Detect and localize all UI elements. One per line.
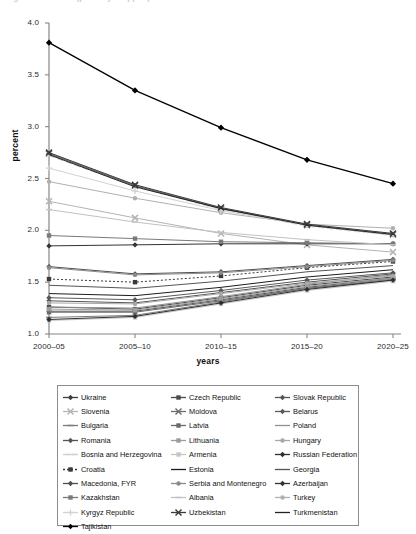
legend-item-turkmenistan[interactable]: Turkmenistan — [274, 505, 362, 519]
legend-item-estonia[interactable]: Estonia — [170, 462, 274, 476]
legend-swatch-icon — [62, 464, 79, 475]
legend-swatch-icon — [274, 492, 291, 503]
legend-item-serbia-and-montenegro[interactable]: Serbia and Montenegro — [170, 476, 274, 490]
legend-label: Hungary — [293, 436, 321, 445]
legend-label: Turkmenistan — [293, 508, 338, 517]
legend-label: Macedonia, FYR — [81, 479, 136, 488]
figure-line-chart: Figure continued (partially cropped) per… — [0, 0, 416, 534]
legend-item-uzbekistan[interactable]: Uzbekistan — [170, 505, 274, 519]
x-tick-label: 2010–15 — [191, 342, 251, 351]
series-moldova — [46, 151, 396, 238]
x-axis-label: years — [0, 356, 416, 366]
legend-swatch-icon — [170, 392, 187, 403]
legend-item-azerbaijan[interactable]: Azerbaijan — [274, 476, 362, 490]
legend-label: Armenia — [189, 450, 217, 459]
legend-label: Albania — [189, 493, 214, 502]
legend-item-russian-federation[interactable]: Russian Federation — [274, 448, 362, 462]
x-tick-label: 2005–10 — [105, 342, 165, 351]
legend-grid: UkraineCzech RepublicSlovak RepublicSlov… — [62, 390, 356, 534]
legend-item-bulgaria[interactable]: Bulgaria — [62, 419, 170, 433]
legend-swatch-icon — [62, 478, 79, 489]
legend-label: Belarus — [293, 407, 318, 416]
legend-label: Moldova — [189, 407, 217, 416]
legend-label: Czech Republic — [189, 393, 241, 402]
y-tick-label: 1.5 — [13, 277, 39, 286]
legend-swatch-icon — [274, 420, 291, 431]
legend-label: Bosnia and Herzegovina — [81, 450, 162, 459]
legend-item-macedonia-fyr[interactable]: Macedonia, FYR — [62, 476, 170, 490]
legend-item-czech-republic[interactable]: Czech Republic — [170, 390, 274, 404]
legend-swatch-icon — [274, 464, 291, 475]
legend-item-poland[interactable]: Poland — [274, 419, 362, 433]
y-tick-label: 1.0 — [13, 329, 39, 338]
legend-item-latvia[interactable]: Latvia — [170, 419, 274, 433]
chart-canvas — [0, 0, 416, 372]
series-tajikistan — [46, 40, 396, 187]
legend-swatch-icon — [274, 392, 291, 403]
legend-item-slovak-republic[interactable]: Slovak Republic — [274, 390, 362, 404]
legend-item-bosnia-and-herzegovina[interactable]: Bosnia and Herzegovina — [62, 448, 170, 462]
series-kyrgyz-republic — [46, 165, 396, 237]
y-tick-label: 2.0 — [13, 225, 39, 234]
legend-swatch-icon — [62, 449, 79, 460]
legend-swatch-icon — [62, 392, 79, 403]
y-axis-label: percent — [10, 149, 20, 162]
plot-area: percent years 4.03.53.02.52.01.51.0 2000… — [0, 0, 416, 372]
legend-label: Azerbaijan — [293, 479, 328, 488]
legend-swatch-icon — [62, 420, 79, 431]
legend-label: Serbia and Montenegro — [189, 479, 266, 488]
legend-swatch-icon — [170, 492, 187, 503]
legend-label: Romania — [81, 436, 111, 445]
legend-item-kyrgyz-republic[interactable]: Kyrgyz Republic — [62, 505, 170, 519]
legend-item-moldova[interactable]: Moldova — [170, 404, 274, 418]
legend-swatch-icon — [170, 420, 187, 431]
legend-label: Russian Federation — [293, 450, 357, 459]
legend-label: Croatia — [81, 465, 105, 474]
series-ukraine — [46, 151, 395, 237]
y-tick-label: 3.5 — [13, 70, 39, 79]
legend-swatch-icon — [274, 507, 291, 518]
legend-item-belarus[interactable]: Belarus — [274, 404, 362, 418]
legend-item-kazakhstan[interactable]: Kazakhstan — [62, 491, 170, 505]
legend-label: Latvia — [189, 421, 209, 430]
legend-label: Kyrgyz Republic — [81, 508, 134, 517]
series-layer — [46, 40, 396, 323]
legend-swatch-icon — [170, 435, 187, 446]
legend-label: Kazakhstan — [81, 493, 120, 502]
legend-label: Estonia — [189, 465, 214, 474]
legend-swatch-icon — [170, 507, 187, 518]
legend-item-ukraine[interactable]: Ukraine — [62, 390, 170, 404]
legend-swatch-icon — [62, 492, 79, 503]
legend-item-hungary[interactable]: Hungary — [274, 433, 362, 447]
legend-item-croatia[interactable]: Croatia — [62, 462, 170, 476]
legend-swatch-icon — [62, 435, 79, 446]
legend-item-georgia[interactable]: Georgia — [274, 462, 362, 476]
legend-item-slovenia[interactable]: Slovenia — [62, 404, 170, 418]
y-tick-label: 3.0 — [13, 122, 39, 131]
legend-label: Slovak Republic — [293, 393, 346, 402]
legend-label: Georgia — [293, 465, 319, 474]
series-turkmenistan — [49, 155, 393, 235]
legend-item-lithuania[interactable]: Lithuania — [170, 433, 274, 447]
y-tick-label: 2.5 — [13, 174, 39, 183]
x-tick-label: 2015–20 — [277, 342, 337, 351]
legend-swatch-icon — [274, 406, 291, 417]
legend-label: Slovenia — [81, 407, 109, 416]
legend-item-romania[interactable]: Romania — [62, 433, 170, 447]
legend-item-turkey[interactable]: Turkey — [274, 491, 362, 505]
legend-label: Turkey — [293, 493, 315, 502]
legend-label: Uzbekistan — [189, 508, 226, 517]
chart-legend: UkraineCzech RepublicSlovak RepublicSlov… — [57, 385, 359, 526]
legend-item-armenia[interactable]: Armenia — [170, 448, 274, 462]
legend-label: Poland — [293, 421, 316, 430]
legend-label: Bulgaria — [81, 421, 108, 430]
x-tick-label: 2000–05 — [19, 342, 79, 351]
legend-item-tajikistan[interactable]: Tajikistan — [62, 520, 170, 534]
legend-swatch-icon — [274, 435, 291, 446]
legend-swatch-icon — [274, 478, 291, 489]
legend-swatch-icon — [62, 406, 79, 417]
y-tick-label: 4.0 — [13, 18, 39, 27]
legend-swatch-icon — [62, 507, 79, 518]
series-uzbekistan — [46, 150, 396, 237]
legend-item-albania[interactable]: Albania — [170, 491, 274, 505]
